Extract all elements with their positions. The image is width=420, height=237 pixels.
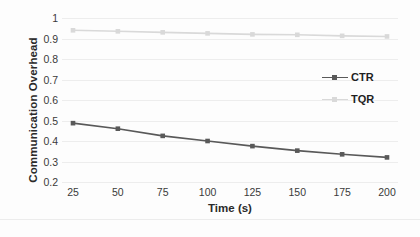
legend-marker-icon [332, 75, 337, 80]
y-tick-label: 0.5 [32, 115, 58, 126]
data-point-marker [160, 134, 165, 139]
x-tick-label: 50 [98, 186, 138, 198]
x-axis-tick-labels: 255075100125150175200 [62, 186, 398, 202]
data-point-marker [250, 144, 255, 149]
x-tick-label: 75 [143, 186, 183, 198]
y-tick-label: 0.7 [32, 74, 58, 85]
legend-swatch-icon [322, 72, 348, 82]
data-point-marker [71, 28, 76, 33]
legend-label: CTR [348, 71, 374, 83]
y-tick-label: 0.8 [32, 54, 58, 65]
bottom-divider [0, 219, 420, 220]
x-axis-title: Time (s) [62, 202, 398, 214]
legend-marker-icon [332, 97, 337, 102]
gridline [62, 182, 398, 183]
y-tick-label: 0.4 [32, 136, 58, 147]
data-point-marker [250, 32, 255, 37]
x-tick-label: 175 [322, 186, 362, 198]
y-tick-label: 0.6 [32, 95, 58, 106]
y-tick-label: 1 [32, 13, 58, 24]
y-axis-tick-labels: 10.90.80.70.60.50.40.30.2 [30, 0, 58, 237]
legend-item-ctr[interactable]: CTR [322, 66, 402, 88]
data-point-marker [205, 139, 210, 144]
data-point-marker [160, 30, 165, 35]
series-ctr [71, 121, 390, 160]
data-point-marker [295, 33, 300, 38]
x-tick-label: 150 [277, 186, 317, 198]
data-point-marker [340, 152, 345, 157]
data-point-marker [71, 121, 76, 126]
y-tick-label: 0.3 [32, 156, 58, 167]
y-tick-label: 0.9 [32, 33, 58, 44]
x-tick-label: 25 [53, 186, 93, 198]
x-tick-label: 125 [232, 186, 272, 198]
legend-label: TQR [348, 93, 374, 105]
x-tick-label: 200 [367, 186, 407, 198]
data-point-marker [116, 126, 121, 131]
data-point-marker [385, 34, 390, 39]
series-tqr [71, 28, 390, 39]
data-point-marker [116, 29, 121, 34]
data-point-marker [385, 155, 390, 160]
data-point-marker [295, 148, 300, 153]
data-point-marker [340, 34, 345, 39]
line-chart: Communication Overhead 10.90.80.70.60.50… [0, 0, 420, 237]
legend-swatch-icon [322, 94, 348, 104]
x-tick-label: 100 [188, 186, 228, 198]
chart-legend: CTRTQR [322, 66, 402, 110]
legend-item-tqr[interactable]: TQR [322, 88, 402, 110]
data-point-marker [205, 31, 210, 36]
